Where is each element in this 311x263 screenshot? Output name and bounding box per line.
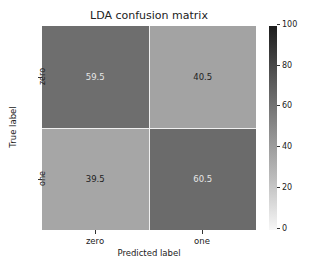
heatmap: 59.5 40.5 39.5 60.5 bbox=[42, 26, 256, 230]
x-tick-zero: zero bbox=[75, 236, 115, 246]
colorbar-tick: 20 bbox=[277, 183, 292, 192]
y-axis-label: True label bbox=[8, 92, 18, 162]
chart-title: LDA confusion matrix bbox=[42, 9, 256, 22]
cell-value: 39.5 bbox=[86, 174, 105, 184]
x-axis-label: Predicted label bbox=[42, 248, 256, 258]
y-tick-mark bbox=[38, 77, 42, 78]
cell-zero-zero: 59.5 bbox=[42, 26, 149, 128]
colorbar-tick: 60 bbox=[277, 101, 292, 110]
colorbar-tick: 100 bbox=[277, 20, 297, 29]
cell-value: 59.5 bbox=[86, 72, 105, 82]
x-tick-mark bbox=[202, 230, 203, 234]
x-tick-one: one bbox=[182, 236, 222, 246]
colorbar-tick: 0 bbox=[277, 224, 287, 233]
cell-value: 40.5 bbox=[193, 72, 212, 82]
colorbar bbox=[269, 26, 277, 230]
cell-one-zero: 39.5 bbox=[42, 129, 149, 231]
y-tick-mark bbox=[38, 179, 42, 180]
cell-one-one: 60.5 bbox=[150, 129, 257, 231]
cell-value: 60.5 bbox=[193, 174, 212, 184]
cell-zero-one: 40.5 bbox=[150, 26, 257, 128]
x-tick-mark bbox=[95, 230, 96, 234]
colorbar-tick: 80 bbox=[277, 61, 292, 70]
colorbar-tick: 40 bbox=[277, 142, 292, 151]
